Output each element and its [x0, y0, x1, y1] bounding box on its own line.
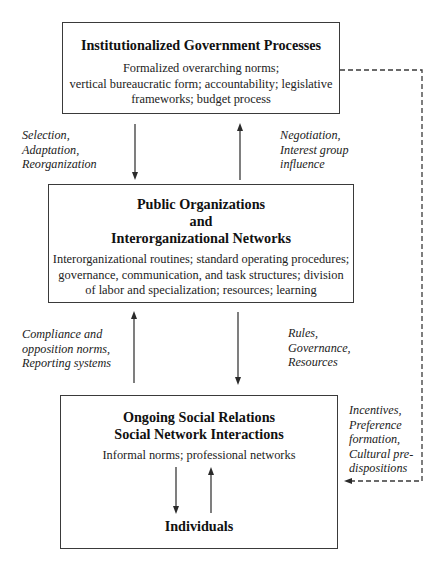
individuals-node: Individuals [61, 518, 337, 535]
label-line: influence [280, 157, 349, 172]
selection-adaptation-label: Selection, Adaptation, Reorganization [22, 128, 97, 172]
label-line: Negotiation, [280, 128, 349, 143]
label-line: Preference [349, 418, 413, 433]
institutional-processes-title: Institutionalized Government Processes [63, 37, 339, 54]
institutional-processes-box: Institutionalized Government Processes F… [62, 22, 340, 114]
label-line: Reorganization [22, 157, 97, 172]
label-line: dispositions [349, 461, 413, 476]
description-line: frameworks; budget process [63, 92, 339, 108]
description-line: vertical bureaucratic form; accountabili… [63, 77, 339, 93]
title-line: Social Network Interactions [61, 426, 337, 443]
label-line: Compliance and [22, 327, 111, 342]
label-line: Cultural pre- [349, 447, 413, 462]
label-line: Interest group [280, 143, 349, 158]
public-organizations-description: Interorganizational routines; standard o… [49, 252, 353, 299]
label-line: Adaptation, [22, 143, 97, 158]
incentives-preference-label: Incentives, Preference formation, Cultur… [349, 403, 413, 476]
label-line: formation, [349, 432, 413, 447]
label-line: Governance, [288, 341, 351, 356]
description-line: of labor and specialization; resources; … [49, 283, 353, 299]
label-line: Reporting systems [22, 356, 111, 371]
label-line: Resources [288, 355, 351, 370]
description-line: Interorganizational routines; standard o… [49, 252, 353, 268]
negotiation-influence-label: Negotiation, Interest group influence [280, 128, 349, 172]
title-line: Ongoing Social Relations [61, 409, 337, 426]
label-line: Rules, [288, 326, 351, 341]
social-relations-box: Ongoing Social Relations Social Network … [60, 395, 338, 549]
social-relations-title: Ongoing Social Relations Social Network … [61, 409, 337, 443]
title-line: and [49, 213, 353, 230]
public-organizations-title: Public Organizations and Interorganizati… [49, 196, 353, 247]
compliance-reporting-label: Compliance and opposition norms, Reporti… [22, 327, 111, 371]
description-line: governance, communication, and task stru… [49, 268, 353, 284]
title-line: Public Organizations [49, 196, 353, 213]
institutional-processes-description: Formalized overarching norms; vertical b… [63, 61, 339, 108]
label-line: Selection, [22, 128, 97, 143]
description-line: Formalized overarching norms; [63, 61, 339, 77]
label-line: opposition norms, [22, 342, 111, 357]
public-organizations-box: Public Organizations and Interorganizati… [48, 184, 354, 303]
title-line: Interorganizational Networks [49, 230, 353, 247]
rules-governance-label: Rules, Governance, Resources [288, 326, 351, 370]
social-relations-description: Informal norms; professional networks [61, 448, 337, 464]
label-line: Incentives, [349, 403, 413, 418]
